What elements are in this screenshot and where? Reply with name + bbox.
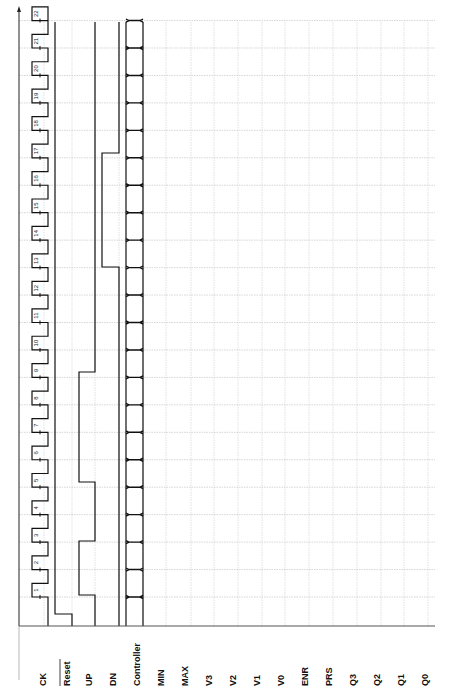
signal-label-prs: PRS: [324, 667, 334, 686]
controller-transition: [126, 431, 143, 434]
cycle-label: 3: [33, 533, 39, 537]
signal-label-q0: Q0: [420, 674, 430, 686]
waveforms: [32, 7, 143, 626]
controller-transition: [126, 266, 143, 269]
controller-transition: [126, 239, 143, 242]
cycle-label: 5: [33, 478, 39, 482]
cycle-label: 12: [33, 284, 39, 291]
cycle-label: 9: [33, 368, 39, 372]
reset-wave: [55, 22, 72, 626]
controller-transition: [126, 541, 143, 544]
cycle-label: 1: [33, 588, 39, 592]
clock-cycle-labels: 12345678910111213141516171819202122: [33, 10, 39, 592]
signal-label-v0: V0: [276, 675, 286, 686]
cycle-label: 7: [33, 423, 39, 427]
cycle-label: 11: [33, 312, 39, 319]
signal-label-min: MIN: [156, 670, 166, 687]
controller-transition: [126, 513, 143, 516]
controller-transition: [126, 19, 143, 22]
controller-transition: [126, 47, 143, 50]
signal-label-v2: V2: [228, 675, 238, 686]
signal-label-v1: V1: [252, 675, 262, 686]
signal-labels: CKResetUPDNControllerMINMAXV3V2V1V0ENRPR…: [38, 643, 430, 686]
controller-transition: [126, 568, 143, 571]
controller-transition: [126, 211, 143, 214]
signal-label-controller: Controller: [132, 643, 142, 686]
cycle-label: 17: [33, 147, 39, 154]
signal-label-q1: Q1: [396, 674, 406, 686]
grid-lines: [19, 21, 435, 626]
cycle-label: 13: [33, 257, 39, 264]
cycle-label: 10: [33, 339, 39, 346]
controller-transition: [126, 74, 143, 77]
up-wave: [79, 22, 95, 626]
cycle-label: 19: [33, 92, 39, 99]
signal-label-q3: Q3: [348, 674, 358, 686]
cycle-label: 8: [33, 396, 39, 400]
signal-label-q2: Q2: [372, 674, 382, 686]
cycle-label: 6: [33, 451, 39, 455]
cycle-label: 2: [33, 560, 39, 564]
cycle-label: 14: [33, 229, 39, 236]
controller-transition: [126, 596, 143, 599]
signal-label-v3: V3: [204, 675, 214, 686]
controller-transition: [126, 403, 143, 406]
cycle-label: 22: [33, 10, 39, 17]
time-axis-arrow-icon: [17, 6, 21, 12]
cycle-label: 21: [33, 37, 39, 44]
controller-transition: [126, 348, 143, 351]
cycle-label: 20: [33, 65, 39, 72]
signal-label-enr: ENR: [300, 666, 310, 686]
cycle-label: 15: [33, 202, 39, 209]
controller-transition: [126, 486, 143, 489]
cycle-label: 4: [33, 505, 39, 509]
controller-transition: [126, 458, 143, 461]
cycle-label: 16: [33, 174, 39, 181]
signal-label-max: MAX: [180, 666, 190, 686]
signal-label-up: UP: [84, 673, 94, 686]
controller-transition: [126, 294, 143, 297]
controller-transition: [126, 156, 143, 159]
controller-transition: [126, 376, 143, 379]
controller-transition: [126, 101, 143, 104]
signal-label-dn: DN: [108, 673, 118, 686]
signal-label-ck: CK: [38, 673, 48, 686]
controller-transition: [126, 184, 143, 187]
controller-transition: [126, 129, 143, 132]
signal-label-reset: Reset: [62, 661, 72, 686]
dn-wave: [102, 22, 119, 626]
cycle-label: 18: [33, 119, 39, 126]
controller-transition: [126, 321, 143, 324]
timing-diagram: 12345678910111213141516171819202122 CKRe…: [0, 0, 449, 691]
